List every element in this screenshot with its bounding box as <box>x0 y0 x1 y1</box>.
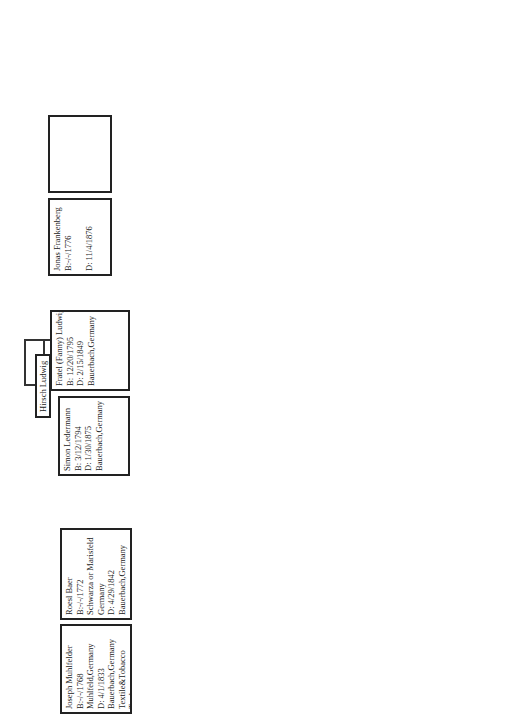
person-name: Fratel (Fanny) Ludwig <box>54 315 65 386</box>
death-place: Bauerbach,Germany <box>117 533 128 615</box>
person-box-frankenberg-spouse[interactable] <box>48 115 112 193</box>
person-name: Simon Ledermann <box>62 401 73 471</box>
person-box-joseph-muhlfelder[interactable]: Joseph Muhlfelder B:-/-/1768 Muhlfeld,Ge… <box>60 624 132 714</box>
death-date: D: 2/15/1849 <box>75 315 86 386</box>
birth-date: B:-/-/1776 <box>63 203 74 271</box>
occupation: Trader <box>127 629 132 709</box>
birth-date: B: 12/20/1795 <box>65 315 76 386</box>
connector <box>24 341 26 386</box>
death-date: D: 11/4/1876 <box>84 203 95 271</box>
person-name: Joseph Muhlfelder <box>64 629 75 709</box>
connector <box>24 385 35 387</box>
person-box-hirsch-ludwig[interactable]: Hirsch Ludwig <box>35 354 51 418</box>
birth-place: Schwarza or Marisfeld <box>85 533 96 615</box>
death-place: Bauerbach,Germany <box>94 401 105 471</box>
person-box-fratel-ludwig[interactable]: Fratel (Fanny) Ludwig B: 12/20/1795 D: 2… <box>50 310 130 391</box>
connector <box>24 340 51 342</box>
connector <box>43 341 45 354</box>
death-date: D: 1/30/1875 <box>83 401 94 471</box>
birth-place: Muhlfeld,Germany <box>85 629 96 709</box>
person-box-roesl-baer[interactable]: Roesl Baer B:-/-/1772 Schwarza or Marisf… <box>60 528 132 620</box>
birth-date: B:-/-/1768 <box>75 629 86 709</box>
death-place: Bauerbach,Germany <box>106 629 117 709</box>
family-tree-diagram: Hirsch Ludwig Joseph Muhlfelder B:-/-/17… <box>0 0 519 718</box>
person-name: Jonas Frankenberg <box>52 203 63 271</box>
occupation: Textile&Tobacco <box>117 629 128 709</box>
person-name: Hirsch Ludwig <box>38 360 49 412</box>
death-date: D: 4/29/1842 <box>106 533 117 615</box>
person-box-simon-ledermann[interactable]: Simon Ledermann B: 3/12/1794 D: 1/30/187… <box>58 396 130 476</box>
person-box-jonas-frankenberg-anc[interactable]: Jonas Frankenberg B:-/-/1776 D: 11/4/187… <box>48 198 112 276</box>
death-place: Bauerbach,Germany <box>86 315 97 386</box>
person-name: Roesl Baer <box>64 533 75 615</box>
spacer <box>73 203 84 271</box>
birth-date: B: 3/12/1794 <box>73 401 84 471</box>
birth-date: B:-/-/1772 <box>75 533 86 615</box>
death-date: D: 4/1/1833 <box>96 629 107 709</box>
birth-place: Germany <box>96 533 107 615</box>
